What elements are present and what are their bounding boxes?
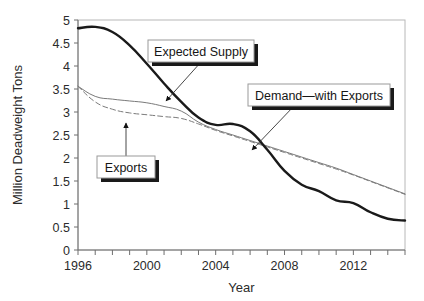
y-tick-label: 4.5: [53, 37, 70, 51]
y-axis-title: Million Deadweight Tons: [10, 65, 25, 205]
x-tick-label: 2008: [271, 259, 299, 273]
y-tick-label: 3: [63, 106, 70, 120]
callout-label: Expected Supply: [154, 45, 249, 59]
x-tick-label: 2004: [202, 259, 230, 273]
callout-leader-line: [166, 62, 201, 101]
y-tick-label: 2.5: [53, 129, 70, 143]
callout-label: Demand—with Exports: [255, 89, 383, 103]
y-tick-label: 5: [63, 14, 70, 28]
x-axis-title: Year: [228, 280, 255, 295]
y-tick-label: 0.5: [53, 221, 70, 235]
chart-figure: 00.511.522.533.544.551996200020042008201…: [0, 0, 424, 301]
x-tick-label: 2000: [133, 259, 161, 273]
y-tick-label: 1: [63, 198, 70, 212]
y-tick-label: 0: [63, 244, 70, 258]
y-tick-label: 2: [63, 152, 70, 166]
x-tick-label: 1996: [64, 259, 92, 273]
x-tick-label: 2012: [339, 259, 367, 273]
line-chart: 00.511.522.533.544.551996200020042008201…: [0, 0, 424, 301]
callout-leader-line: [252, 106, 294, 150]
y-tick-label: 1.5: [53, 175, 70, 189]
y-tick-label: 4: [63, 60, 70, 74]
y-tick-label: 3.5: [53, 83, 70, 97]
callout-label: Exports: [105, 161, 147, 175]
